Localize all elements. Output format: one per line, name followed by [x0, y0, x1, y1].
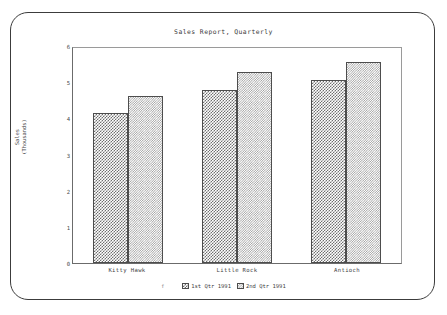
- legend-label-1st-qtr: 1st Qtr 1991: [191, 283, 231, 289]
- legend-entry-1st-qtr[interactable]: 1st Qtr 1991: [182, 283, 231, 289]
- x-axis-label-kitty-hawk: Kitty Hawk: [108, 267, 145, 273]
- x-axis-label-little-rock: Little Rock: [217, 267, 258, 273]
- bar-antioch-1st-qtr[interactable]: [311, 80, 346, 263]
- y-tick-label-3: 3: [58, 153, 70, 159]
- y-tick-label-4: 4: [58, 116, 70, 122]
- legend-swatch-icon-2nd-qtr: [237, 283, 244, 289]
- bar-kitty-hawk-1st-qtr[interactable]: [93, 113, 128, 264]
- y-tick-label-0: 0: [58, 261, 70, 267]
- y-tick-label-6: 6: [58, 44, 70, 50]
- y-tick-label-5: 5: [58, 80, 70, 86]
- chart-legend: f 1st Qtr 1991 2nd Qtr 1991: [0, 283, 447, 289]
- bar-little-rock-2nd-qtr[interactable]: [237, 72, 272, 263]
- legend-marker-glyph: f: [161, 283, 164, 289]
- x-axis-label-antioch: Antioch: [334, 267, 360, 273]
- plot-area: [72, 47, 402, 264]
- y-tick-label-2: 2: [58, 189, 70, 195]
- chart-page: Sales Report, Quarterly Sales (Thousands…: [0, 0, 447, 315]
- bar-kitty-hawk-2nd-qtr[interactable]: [128, 96, 163, 263]
- bar-antioch-2nd-qtr[interactable]: [346, 62, 381, 263]
- legend-swatch-icon-1st-qtr: [182, 283, 189, 289]
- legend-label-2nd-qtr: 2nd Qtr 1991: [246, 283, 286, 289]
- bar-little-rock-1st-qtr[interactable]: [202, 90, 237, 263]
- legend-entry-2nd-qtr[interactable]: 2nd Qtr 1991: [237, 283, 286, 289]
- y-axis-title: Sales (Thousands): [14, 107, 28, 167]
- chart-title: Sales Report, Quarterly: [0, 28, 447, 36]
- y-tick-label-1: 1: [58, 225, 70, 231]
